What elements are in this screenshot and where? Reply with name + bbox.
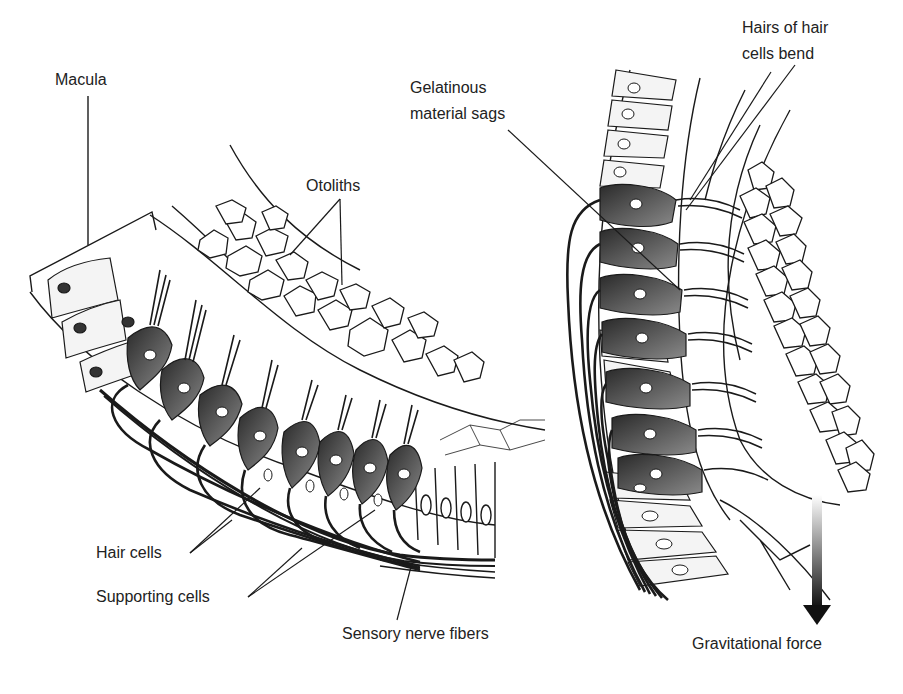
label-gravitational-force: Gravitational force <box>692 634 822 653</box>
label-hairs-bend-line1: Hairs of hair <box>742 18 828 37</box>
gravitational-force-arrow <box>803 495 831 625</box>
label-macula: Macula <box>55 70 107 89</box>
supporting-cells-right <box>415 462 495 558</box>
label-supporting-cells: Supporting cells <box>96 587 210 606</box>
label-gelatinous-material-line2: material sags <box>410 104 505 123</box>
label-otoliths: Otoliths <box>306 176 360 195</box>
right-hair-cells <box>600 184 702 495</box>
label-hairs-bend-line2: cells bend <box>742 44 814 63</box>
right-otoliths <box>740 162 874 492</box>
label-hair-cells: Hair cells <box>96 543 162 562</box>
label-gelatinous-material-line1: Gelatinous <box>410 78 487 97</box>
label-sensory-nerve-fibers: Sensory nerve fibers <box>342 624 489 643</box>
left-hair-cells <box>127 327 422 510</box>
left-supporting-cells-top <box>48 258 134 392</box>
